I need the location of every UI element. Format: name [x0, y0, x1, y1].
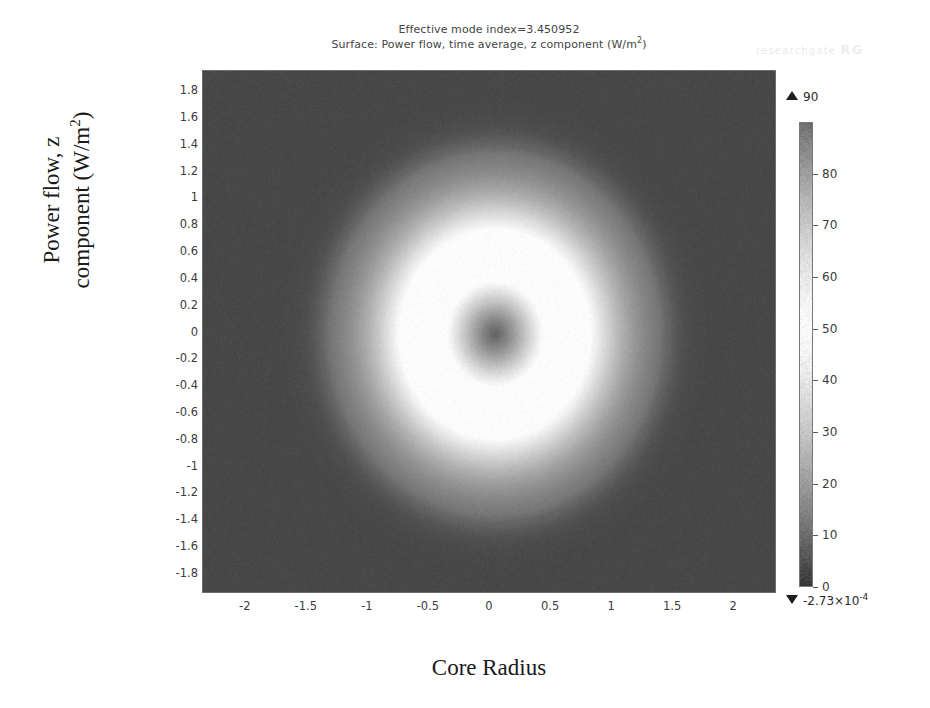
- colorbar-tick-label: 40: [822, 373, 837, 387]
- y-tick-label: -1.8: [152, 566, 198, 580]
- y-tick-label: 1.4: [152, 137, 198, 151]
- x-tick-label: -0.5: [398, 599, 458, 613]
- y-tick-label: 0.4: [152, 271, 198, 285]
- surface-plot-figure: Effective mode index=3.450952 Surface: P…: [0, 0, 930, 708]
- x-tick-label: -1.5: [276, 599, 336, 613]
- colorbar-tick-label: 60: [822, 270, 837, 284]
- x-axis-tick-labels: -2-1.5-1-0.500.511.52: [202, 595, 776, 617]
- x-tick-label: -2: [215, 599, 275, 613]
- y-axis-label-line-2-prefix: component (W/m: [69, 127, 94, 289]
- colorbar-min-label: -2.73×10-4: [786, 594, 868, 608]
- y-tick-label: 0.6: [152, 244, 198, 258]
- colorbar-tick-mark: [813, 535, 818, 536]
- colorbar-tick-mark: [813, 587, 818, 588]
- plot-title-line-2: Surface: Power flow, time average, z com…: [202, 37, 776, 52]
- x-tick-label: 0: [459, 599, 519, 613]
- plot-title-block: Effective mode index=3.450952 Surface: P…: [202, 22, 776, 52]
- y-tick-label: 0.8: [152, 217, 198, 231]
- y-axis-label: Power flow, z component (W/m2): [37, 70, 97, 330]
- colorbar-gradient: [799, 122, 813, 587]
- y-axis-label-superscript: 2: [67, 119, 83, 127]
- watermark-text: researchgate: [756, 45, 836, 56]
- colorbar-tick-mark: [813, 174, 818, 175]
- surface-field-canvas: [203, 71, 775, 592]
- colorbar-max-label: 90: [786, 90, 818, 104]
- x-tick-label: 1.5: [642, 599, 702, 613]
- plot-title-line-2-suffix: ): [642, 38, 646, 51]
- plot-area: [202, 70, 776, 593]
- y-tick-label: 1: [152, 190, 198, 204]
- colorbar-tick-label: 30: [822, 425, 837, 439]
- y-tick-label: 0: [152, 325, 198, 339]
- plot-title-line-1: Effective mode index=3.450952: [202, 22, 776, 37]
- y-axis-label-line-1: Power flow, z: [37, 70, 67, 330]
- watermark: researchgate RG: [756, 42, 886, 64]
- colorbar-min-exponent: -4: [859, 592, 868, 602]
- y-tick-label: -1.2: [152, 485, 198, 499]
- x-tick-label: 2: [703, 599, 763, 613]
- x-tick-label: -1: [337, 599, 397, 613]
- y-tick-label: -0.6: [152, 405, 198, 419]
- y-tick-label: -1.4: [152, 512, 198, 526]
- y-tick-label: 0.2: [152, 298, 198, 312]
- y-tick-label: 1.6: [152, 110, 198, 124]
- y-tick-label: 1.2: [152, 164, 198, 178]
- plot-title-line-2-prefix: Surface: Power flow, time average, z com…: [331, 38, 637, 51]
- y-tick-label: -0.4: [152, 378, 198, 392]
- triangle-up-icon: [786, 91, 798, 100]
- colorbar-min-mantissa: -2.73×10: [803, 594, 859, 608]
- colorbar-tick-label: 0: [822, 580, 830, 594]
- colorbar-tick-mark: [813, 329, 818, 330]
- y-tick-label: 1.8: [152, 83, 198, 97]
- x-axis-label: Core Radius: [202, 655, 776, 681]
- colorbar-tick-label: 50: [822, 322, 837, 336]
- y-axis-label-line-2: component (W/m2): [67, 70, 97, 330]
- x-tick-label: 0.5: [520, 599, 580, 613]
- colorbar-tick-mark: [813, 380, 818, 381]
- colorbar-tick-label: 70: [822, 218, 837, 232]
- y-tick-label: -0.2: [152, 351, 198, 365]
- colorbar-tick-label: 80: [822, 167, 837, 181]
- colorbar: 90 01020304050607080 -2.73×10-4: [786, 82, 916, 610]
- watermark-logo-icon: RG: [841, 42, 864, 57]
- colorbar-tick-label: 10: [822, 528, 837, 542]
- y-tick-label: -0.8: [152, 432, 198, 446]
- triangle-down-icon: [786, 595, 798, 604]
- colorbar-tick-mark: [813, 432, 818, 433]
- colorbar-max-value: 90: [803, 90, 818, 104]
- colorbar-tick-mark: [813, 225, 818, 226]
- colorbar-canvas: [800, 123, 812, 586]
- colorbar-tick-label: 20: [822, 477, 837, 491]
- y-tick-label: -1: [152, 459, 198, 473]
- y-tick-label: -1.6: [152, 539, 198, 553]
- colorbar-tick-mark: [813, 484, 818, 485]
- colorbar-tick-mark: [813, 277, 818, 278]
- x-tick-label: 1: [581, 599, 641, 613]
- y-axis-tick-labels: 1.81.61.41.210.80.60.40.20-0.2-0.4-0.6-0…: [148, 70, 198, 593]
- y-axis-label-line-2-suffix: ): [69, 112, 94, 120]
